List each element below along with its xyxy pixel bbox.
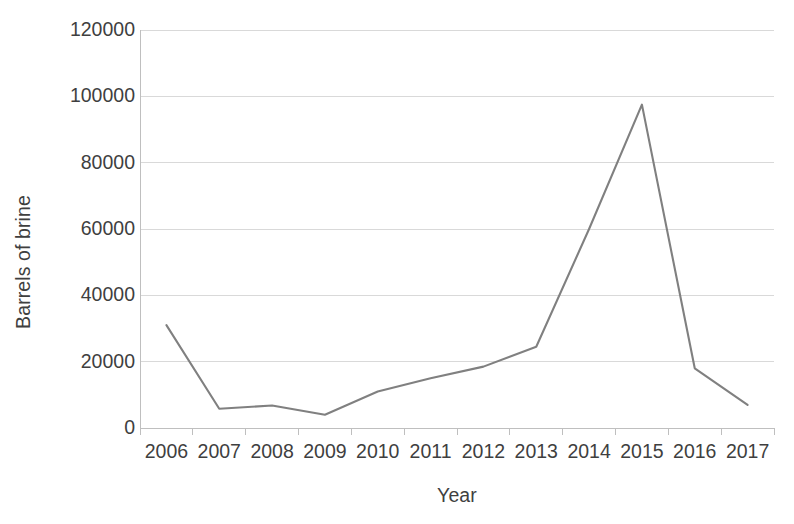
y-axis-tick-label: 80000	[40, 153, 135, 173]
x-axis-title: Year	[140, 484, 774, 507]
plot-svg	[140, 30, 774, 428]
line-chart: Barrels of brine 02000040000600008000010…	[0, 0, 794, 524]
x-axis-tick-label: 2011	[410, 440, 452, 462]
y-axis-tick-label: 0	[40, 418, 135, 438]
x-axis-tick-label: 2007	[198, 440, 241, 462]
x-axis-tick-label: 2009	[303, 440, 346, 462]
x-axis-tick-label: 2010	[356, 440, 399, 462]
x-axis-tick-label: 2013	[515, 440, 558, 462]
x-axis-tick-label: 2014	[567, 440, 610, 462]
x-axis-tick-label: 2017	[726, 440, 769, 462]
y-axis-tick-label: 60000	[40, 219, 135, 239]
x-axis-tick-label: 2015	[620, 440, 663, 462]
y-axis-tick-label: 120000	[40, 20, 135, 40]
x-axis-tick-label: 2016	[673, 440, 716, 462]
x-axis-tick-label: 2008	[250, 440, 293, 462]
x-axis-tick-labels: 2006200720082009201020112012201320142015…	[140, 440, 774, 470]
data-series-line	[166, 105, 747, 415]
y-axis-tick-label: 100000	[40, 87, 135, 107]
x-axis-tick-label: 2012	[462, 440, 505, 462]
y-axis-tick-label: 20000	[40, 352, 135, 372]
y-axis-tick-label: 40000	[40, 286, 135, 306]
x-axis-tickmarks	[140, 428, 774, 435]
x-axis-tick-label: 2006	[145, 440, 188, 462]
plot-area	[140, 30, 774, 428]
gridlines	[140, 30, 774, 428]
data-series-group	[166, 105, 747, 415]
y-axis-tick-labels: 020000400006000080000100000120000	[40, 0, 135, 524]
